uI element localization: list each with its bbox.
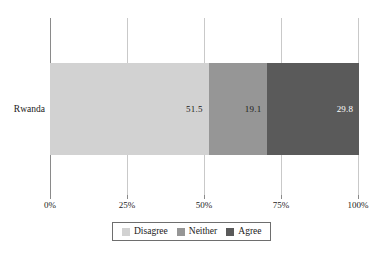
legend-item-neither[interactable]: Neither [177, 226, 218, 237]
legend-label-disagree: Disagree [134, 226, 168, 237]
bar-value-label-neither: 19.1 [245, 104, 262, 114]
x-axis-label-100pct: 100% [348, 200, 369, 211]
caption-strip [0, 252, 381, 261]
legend-item-agree[interactable]: Agree [226, 226, 261, 237]
bar-segment-disagree: 51.5 [50, 63, 209, 155]
bar-value-label-agree: 29.8 [337, 104, 354, 114]
x-axis-label-0pct: 0% [44, 200, 56, 211]
x-axis-tick-50pct [204, 195, 205, 199]
plot-area: 51.519.129.8 [50, 18, 358, 195]
x-axis-tick-0pct [50, 195, 51, 199]
bar-segment-neither: 19.1 [209, 63, 268, 155]
legend-swatch-disagree [122, 228, 130, 236]
legend: DisagreeNeitherAgree [112, 222, 271, 241]
legend-swatch-agree [226, 228, 234, 236]
x-axis-label-50pct: 50% [196, 200, 213, 211]
category-label-rwanda: Rwanda [0, 104, 45, 115]
x-axis-tick-75pct [281, 195, 282, 199]
x-axis-tick-100pct [358, 195, 359, 199]
legend-item-disagree[interactable]: Disagree [122, 226, 168, 237]
x-axis-label-75pct: 75% [273, 200, 290, 211]
legend-label-neither: Neither [189, 226, 218, 237]
legend-label-agree: Agree [238, 226, 261, 237]
legend-swatch-neither [177, 228, 185, 236]
x-axis-tick-25pct [127, 195, 128, 199]
stacked-bar-chart: Rwanda 51.519.129.8 0%25%50%75%100% Disa… [0, 0, 381, 261]
bar-value-label-disagree: 51.5 [186, 104, 203, 114]
table-row: 51.519.129.8 [50, 63, 358, 155]
x-axis-label-25pct: 25% [119, 200, 136, 211]
bar-segment-agree: 29.8 [267, 63, 359, 155]
